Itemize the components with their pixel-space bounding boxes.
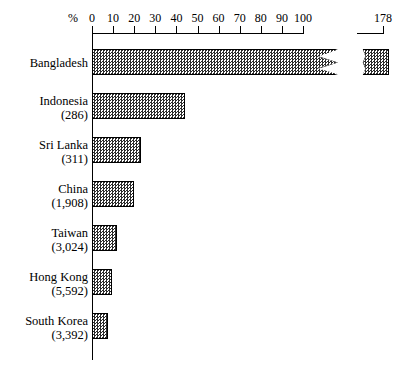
x-tick-178 — [383, 26, 384, 33]
x-tick-100 — [303, 26, 304, 33]
x-tick-90 — [282, 26, 283, 33]
horizontal-bar-chart: % 0102030405060708090100 178 BangladeshI… — [0, 0, 407, 370]
bar-sri-lanka — [92, 137, 141, 163]
category-sample-size: (3,392) — [0, 328, 88, 342]
category-name: Bangladesh — [0, 56, 88, 70]
category-label-hong-kong: Hong Kong(5,592) — [0, 270, 88, 298]
x-tick-60 — [219, 26, 220, 33]
axis-unit-label: % — [56, 12, 78, 24]
x-tick-30 — [155, 26, 156, 33]
x-tick-0 — [92, 26, 93, 33]
x-tick-80 — [261, 26, 262, 33]
category-name: Hong Kong — [0, 270, 88, 284]
category-name: South Korea — [0, 314, 88, 328]
category-label-indonesia: Indonesia(286) — [0, 94, 88, 122]
x-tick-10 — [113, 26, 114, 33]
x-tick-40 — [176, 26, 177, 33]
axis-break-label: 178 — [363, 12, 403, 24]
x-axis-rule-break — [357, 33, 384, 34]
bar-bangladesh-left — [93, 50, 337, 74]
category-label-china: China(1,908) — [0, 182, 88, 210]
category-label-bangladesh: Bangladesh — [0, 56, 88, 70]
category-sample-size: (286) — [0, 108, 88, 122]
x-tick-20 — [134, 26, 135, 33]
x-tick-50 — [198, 26, 199, 33]
category-sample-size: (1,908) — [0, 196, 88, 210]
bar-bangladesh-right — [358, 50, 388, 74]
bar-indonesia — [92, 93, 185, 119]
category-sample-size: (3,024) — [0, 240, 88, 254]
bar-china — [92, 181, 134, 207]
bar-hong-kong — [92, 269, 112, 295]
category-label-taiwan: Taiwan(3,024) — [0, 226, 88, 254]
category-name: Sri Lanka — [0, 138, 88, 152]
category-label-sri-lanka: Sri Lanka(311) — [0, 138, 88, 166]
category-name: Taiwan — [0, 226, 88, 240]
category-sample-size: (311) — [0, 152, 88, 166]
x-tick-70 — [240, 26, 241, 33]
category-sample-size: (5,592) — [0, 284, 88, 298]
bar-south-korea — [92, 313, 108, 339]
category-name: Indonesia — [0, 94, 88, 108]
category-label-south-korea: South Korea(3,392) — [0, 314, 88, 342]
x-tick-label-100: 100 — [288, 12, 318, 24]
x-axis-rule-main — [92, 33, 304, 34]
bar-taiwan — [92, 225, 117, 251]
category-name: China — [0, 182, 88, 196]
